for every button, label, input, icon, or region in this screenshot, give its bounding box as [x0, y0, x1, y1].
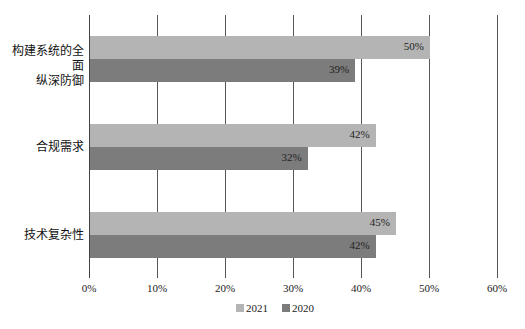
bar-value-label: 45%	[370, 216, 390, 228]
legend-item-2020: 2020	[282, 302, 314, 314]
x-tick-label: 10%	[137, 282, 177, 294]
bar-value-label: 39%	[329, 63, 349, 75]
legend-swatch-2020	[282, 304, 290, 312]
category-label: 技术复杂性	[4, 228, 84, 243]
x-tick-label: 20%	[205, 282, 245, 294]
bar-2020: 42%	[90, 235, 376, 258]
x-tick-label: 30%	[273, 282, 313, 294]
gridline	[497, 15, 498, 278]
bar-2021: 50%	[90, 36, 430, 59]
legend-label-2020: 2020	[292, 302, 314, 314]
bar-2020: 32%	[90, 147, 308, 170]
bar-value-label: 42%	[349, 239, 369, 251]
bar-2021: 45%	[90, 212, 396, 235]
horizontal-bar-chart: 50%39%42%32%45%42% 构建系统的全面纵深防御合规需求技术复杂性 …	[0, 0, 525, 329]
bar-value-label: 42%	[349, 128, 369, 140]
legend-swatch-2021	[236, 304, 244, 312]
category-label: 构建系统的全面纵深防御	[4, 44, 84, 89]
x-tick-label: 0%	[69, 282, 109, 294]
bar-2021: 42%	[90, 124, 376, 147]
x-tick-label: 50%	[409, 282, 449, 294]
legend: 2021 2020	[236, 302, 314, 314]
category-label: 合规需求	[4, 140, 84, 155]
bar-value-label: 50%	[404, 40, 424, 52]
bar-2020: 39%	[90, 59, 355, 82]
x-tick-label: 40%	[341, 282, 381, 294]
legend-item-2021: 2021	[236, 302, 268, 314]
bar-value-label: 32%	[281, 151, 301, 163]
legend-label-2021: 2021	[246, 302, 268, 314]
x-tick-label: 60%	[477, 282, 517, 294]
